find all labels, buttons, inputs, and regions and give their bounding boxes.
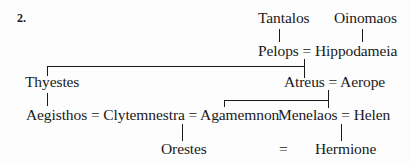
- node-hermione: Hermione: [315, 141, 376, 157]
- line-clytemnestra-orestes: [182, 124, 183, 141]
- figure-number: 2.: [17, 12, 26, 24]
- line-pelops-sibling-bar: [47, 66, 305, 67]
- line-menelaos-hermione: [341, 124, 342, 141]
- node-orestes: Orestes: [161, 141, 207, 157]
- node-atreus-aerope: Atreus = Aerope: [284, 74, 385, 90]
- node-oinomaos: Oinomaos: [334, 10, 397, 26]
- line-tantalos-pelops: [279, 29, 280, 42]
- node-aegisthos-clytemnestra-agamemnon: Aegisthos = Clytemnestra = Agamemnon: [26, 107, 279, 123]
- line-oinomaos-hippodameia: [362, 29, 363, 42]
- node-menelaos-helen: Menelaos = Helen: [278, 107, 390, 123]
- node-tantalos: Tantalos: [258, 10, 310, 26]
- marriage-sign: =: [279, 141, 288, 157]
- line-thyestes-aegisthos: [47, 93, 48, 106]
- node-thyestes: Thyestes: [25, 74, 79, 90]
- line-atreus-sibling-bar: [224, 100, 329, 101]
- node-pelops-hippodameia: Pelops = Hippodameia: [258, 43, 397, 59]
- genealogy-diagram: 2. Tantalos Oinomaos Pelops = Hippodamei…: [0, 0, 410, 166]
